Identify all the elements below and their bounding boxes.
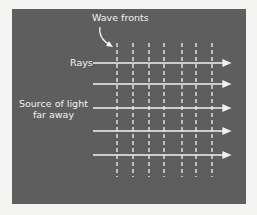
arrowhead-icon bbox=[223, 105, 230, 111]
arrowhead-icon bbox=[223, 60, 230, 66]
arrowhead-icon bbox=[223, 152, 230, 158]
arrowhead-icon bbox=[223, 128, 230, 134]
rays bbox=[93, 60, 230, 158]
source-label-line2: far away bbox=[19, 109, 88, 120]
wave-fronts-label: Wave fronts bbox=[92, 12, 149, 23]
source-label: Source of light far away bbox=[19, 98, 88, 120]
pointer-arrow bbox=[100, 27, 113, 47]
arrowhead-icon bbox=[106, 41, 113, 47]
source-label-line1: Source of light bbox=[19, 98, 88, 109]
rays-label: Rays bbox=[70, 57, 93, 68]
arrowhead-icon bbox=[223, 81, 230, 87]
